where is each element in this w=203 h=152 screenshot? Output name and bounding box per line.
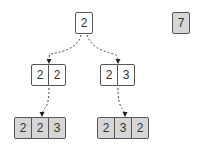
side-box-cell: 7 [172,12,190,34]
bottom-left-cell: 3 [48,117,66,139]
root-node: 2 [75,12,93,34]
middle-left-node: 2 2 [31,64,66,86]
bottom-right-cell: 2 [131,117,149,139]
bottom-right-node: 2 3 2 [97,117,149,139]
edge-middle-right-to-bottom-right [118,88,125,116]
middle-left-cell: 2 [48,64,66,86]
bottom-left-cell: 2 [14,117,32,139]
bottom-right-cell: 2 [97,117,115,139]
root-cell: 2 [75,12,93,34]
side-box-node: 7 [172,12,190,34]
middle-right-cell: 3 [117,64,135,86]
bottom-left-cell: 2 [31,117,49,139]
middle-left-cell: 2 [31,64,49,86]
bottom-right-cell: 3 [114,117,132,139]
middle-right-cell: 2 [100,64,118,86]
edge-root-to-middle-right [87,35,118,63]
bottom-left-node: 2 2 3 [14,117,66,139]
middle-right-node: 2 3 [100,64,135,86]
edge-middle-left-to-bottom-left [42,88,49,116]
edge-root-to-middle-left [49,35,81,63]
